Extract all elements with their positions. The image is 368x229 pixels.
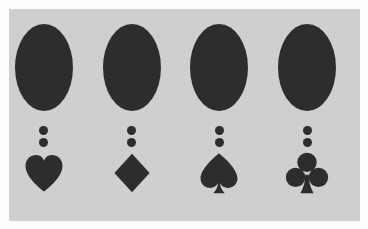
dot-pair [303, 126, 312, 147]
dot-upper [127, 126, 136, 135]
suit-column-heart: Hearts [5, 0, 83, 212]
dot-pair [39, 126, 48, 147]
oval-shape [103, 24, 161, 111]
figure-root: Hearts Diamonds Spades [0, 0, 368, 229]
spade-icon [197, 151, 241, 195]
dot-lower [39, 138, 48, 147]
suit-column-spade: Spades [180, 0, 258, 212]
suit-column-group: Hearts Diamonds Spades [0, 0, 351, 212]
oval-shape [15, 24, 73, 111]
suit-column-diamond: Diamonds [93, 0, 171, 212]
dot-pair [215, 126, 224, 147]
diamond-icon [110, 151, 154, 195]
dot-lower [215, 138, 224, 147]
oval-shape [190, 24, 248, 111]
dot-lower [303, 138, 312, 147]
heart-icon [22, 151, 66, 195]
dot-upper [303, 126, 312, 135]
dot-upper [39, 126, 48, 135]
oval-shape [278, 24, 336, 111]
club-icon [285, 151, 329, 195]
dot-pair [127, 126, 136, 147]
suit-column-club: Clubs [268, 0, 346, 212]
dot-lower [127, 138, 136, 147]
dot-upper [215, 126, 224, 135]
